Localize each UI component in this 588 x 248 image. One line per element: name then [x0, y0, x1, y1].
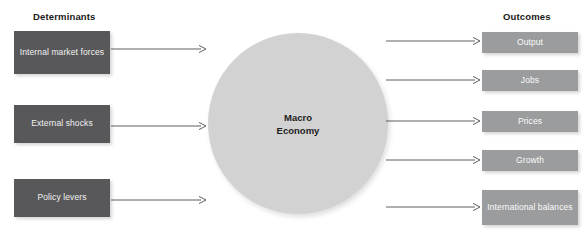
node-jobs-label: Jobs [521, 75, 539, 87]
determinants-column-heading: Determinants [33, 11, 96, 22]
arrow-internal-market-forces-to-macro-economy-head-icon [199, 45, 206, 52]
macro-economy-diagram: Determinants Outcomes Internal market fo… [0, 0, 588, 248]
arrow-macro-economy-to-international-balances [386, 203, 480, 210]
arrow-macro-economy-to-output [386, 37, 480, 44]
node-internal-market-forces-label: Internal market forces [20, 47, 104, 59]
node-policy-levers[interactable]: Policy levers [14, 179, 110, 217]
node-growth[interactable]: Growth [482, 150, 578, 171]
arrow-internal-market-forces-to-macro-economy [111, 45, 206, 52]
arrow-macro-economy-to-output-head-icon [473, 37, 480, 44]
arrow-macro-economy-to-prices-head-icon [473, 117, 480, 124]
arrow-policy-levers-to-macro-economy-head-icon [199, 196, 206, 203]
node-output-label: Output [517, 37, 543, 49]
node-output[interactable]: Output [482, 32, 578, 53]
arrow-macro-economy-to-jobs [386, 76, 480, 83]
node-international-balances[interactable]: International balances [482, 190, 578, 225]
arrow-macro-economy-to-growth-head-icon [473, 156, 480, 163]
arrow-external-shocks-to-macro-economy [111, 122, 206, 129]
node-external-shocks[interactable]: External shocks [14, 105, 110, 143]
node-international-balances-label: International balances [487, 202, 572, 214]
node-internal-market-forces[interactable]: Internal market forces [14, 31, 110, 74]
node-macro-economy-label: Macro Economy [277, 111, 320, 137]
arrow-macro-economy-to-jobs-head-icon [473, 76, 480, 83]
node-growth-label: Growth [516, 155, 544, 167]
node-prices-label: Prices [518, 116, 542, 128]
arrow-macro-economy-to-growth [386, 156, 480, 163]
node-prices[interactable]: Prices [482, 111, 578, 132]
arrow-policy-levers-to-macro-economy [111, 196, 206, 203]
node-external-shocks-label: External shocks [31, 118, 93, 130]
node-policy-levers-label: Policy levers [37, 192, 86, 204]
arrow-macro-economy-to-prices [386, 117, 480, 124]
arrow-external-shocks-to-macro-economy-head-icon [199, 122, 206, 129]
outcomes-column-heading: Outcomes [503, 11, 551, 22]
arrow-macro-economy-to-international-balances-head-icon [473, 203, 480, 210]
node-macro-economy[interactable]: Macro Economy [208, 33, 388, 214]
node-jobs[interactable]: Jobs [482, 70, 578, 91]
